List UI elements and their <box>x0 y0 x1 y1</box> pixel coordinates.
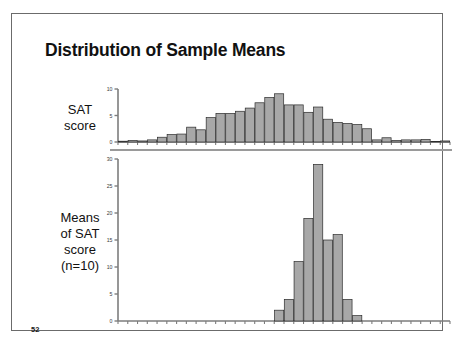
histogram-bar <box>294 262 303 321</box>
histogram-bar <box>441 141 450 142</box>
histogram-bar <box>148 140 157 142</box>
histogram-bar <box>353 125 362 142</box>
histogram-bar <box>392 140 401 142</box>
histogram-bar <box>255 103 264 142</box>
chart-means-of-sat-score-histogram: 051015202530 <box>104 153 452 333</box>
y-axis-tick-label: 0 <box>110 318 113 324</box>
histogram-bar <box>196 130 205 142</box>
histogram-bar <box>431 141 440 142</box>
page-title: Distribution of Sample Means <box>45 40 285 61</box>
histogram-bar <box>265 97 274 142</box>
histogram-bar <box>362 129 371 142</box>
sat-score-histogram-svg: 0510 <box>104 82 452 150</box>
histogram-bar <box>294 105 303 142</box>
histogram-bar <box>177 134 186 142</box>
histogram-bar <box>304 112 313 142</box>
y-axis-tick-label: 15 <box>107 237 113 243</box>
histogram-bar <box>304 218 313 321</box>
histogram-bar <box>314 107 323 142</box>
histogram-bar <box>421 139 430 142</box>
chart-sat-score-histogram: 0510 <box>104 82 452 150</box>
histogram-bar <box>128 140 137 142</box>
histogram-bar <box>216 113 225 142</box>
histogram-bar <box>284 105 293 142</box>
y-axis-tick-label: 10 <box>107 264 113 270</box>
histogram-bar <box>353 316 362 321</box>
histogram-bar <box>235 111 244 142</box>
histogram-bar <box>323 240 332 321</box>
histogram-bar <box>382 138 391 142</box>
histogram-bar <box>157 137 166 142</box>
y-axis-tick-label: 0 <box>110 139 113 145</box>
histogram-bar <box>275 94 284 142</box>
slide-page-number: 52 <box>31 325 39 334</box>
y-axis-tick-label: 25 <box>107 183 113 189</box>
y-axis-tick-label: 5 <box>110 113 113 119</box>
y-axis-tick-label: 10 <box>107 86 113 92</box>
histogram-bar <box>343 123 352 142</box>
histogram-bar <box>206 118 215 142</box>
y-axis-tick-label: 30 <box>107 156 113 162</box>
histogram-bar <box>343 299 352 321</box>
slide-frame: Distribution of Sample Means 52 SAT scor… <box>11 13 443 331</box>
histogram-bar <box>284 299 293 321</box>
histogram-bar <box>333 122 342 142</box>
histogram-bar <box>411 140 420 142</box>
means-of-sat-score-histogram-svg: 051015202530 <box>104 153 452 333</box>
histogram-bar <box>323 119 332 142</box>
y-axis-tick-label: 20 <box>107 210 113 216</box>
histogram-bar <box>226 113 235 142</box>
histogram-bar <box>372 140 381 142</box>
y-axis-tick-label: 5 <box>110 291 113 297</box>
histogram-bar <box>401 140 410 142</box>
histogram-bar <box>245 108 254 142</box>
histogram-bar <box>138 141 147 142</box>
histogram-bar <box>167 135 176 142</box>
histogram-bar <box>275 310 284 321</box>
histogram-bar <box>118 141 127 142</box>
histogram-bar <box>314 164 323 321</box>
histogram-bar <box>187 127 196 142</box>
histogram-bar <box>333 235 342 321</box>
